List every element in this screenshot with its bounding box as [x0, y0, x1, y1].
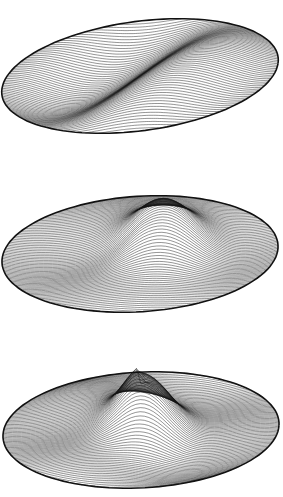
surface-lines — [0, 364, 283, 497]
surface-plot-mode-3 — [0, 364, 283, 497]
surface-plot-mode-2 — [0, 188, 283, 323]
surface-lines — [0, 12, 283, 147]
surface-lines — [0, 188, 283, 323]
surface-plot-mode-1 — [0, 12, 283, 147]
